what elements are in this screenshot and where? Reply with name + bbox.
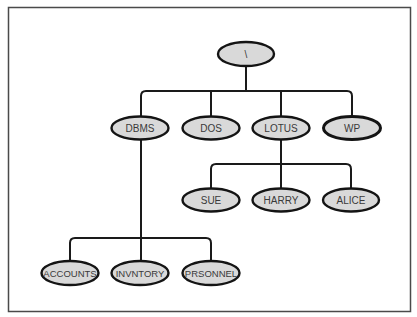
node-invntory[interactable]: INVNTORY [112,261,169,285]
node-alice[interactable]: ALICE [323,189,379,212]
node-sue[interactable]: SUE [183,189,240,212]
node-alice-label: ALICE [337,195,366,206]
node-dbms-label: DBMS [126,123,155,134]
edges-root-to-level1 [141,66,352,117]
node-dos[interactable]: DOS [183,117,240,140]
edge-level1-bus [141,91,352,117]
node-dbms[interactable]: DBMS [112,117,169,140]
node-wp[interactable]: WP [324,117,381,140]
node-root[interactable]: \ [218,42,274,66]
edges-lotus-to-children [211,139,351,189]
node-lotus[interactable]: LOTUS [253,117,310,140]
node-prsonnel-label: PRSONNEL [185,268,237,279]
node-accounts[interactable]: ACCOUNTS [42,261,99,285]
node-wp-label: WP [344,123,360,134]
node-lotus-label: LOTUS [264,123,298,134]
node-invntory-label: INVNTORY [116,268,165,279]
node-accounts-label: ACCOUNTS [43,268,96,279]
node-dos-label: DOS [200,123,222,134]
node-harry-label: HARRY [264,195,299,206]
node-prsonnel[interactable]: PRSONNEL [183,261,240,285]
node-harry[interactable]: HARRY [253,189,310,212]
node-root-label: \ [245,49,248,60]
directory-tree-diagram: \ DBMS DOS LOTUS WP SUE HARRY ALICE ACCO… [0,0,417,317]
node-sue-label: SUE [201,195,222,206]
